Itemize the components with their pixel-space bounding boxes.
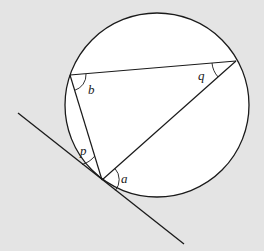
angle-label-q: q (198, 68, 205, 83)
angle-label-b: b (88, 82, 95, 97)
circle (65, 13, 249, 197)
angle-label-a: a (121, 171, 128, 186)
angle-label-p: p (79, 143, 87, 158)
circle-theorem-diagram: b q p a (0, 0, 264, 251)
